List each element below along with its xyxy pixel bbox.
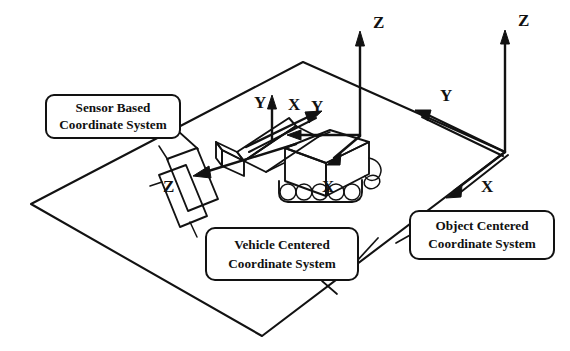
object-frame-x-label: X	[481, 177, 494, 196]
sensor-frame-y-arrowhead	[268, 95, 277, 109]
object-centered-frame: Z Y X	[415, 11, 529, 198]
sensor-based-frame: Y X Z	[163, 93, 322, 196]
vehicle-road-wheel	[280, 184, 296, 200]
vehicle-callout-line1: Vehicle Centered	[234, 237, 330, 252]
sensor-based-coordinate-system-callout[interactable]: Sensor Based Coordinate System	[46, 95, 198, 149]
vehicle-callout-line2: Coordinate System	[228, 256, 335, 271]
target-object-panel	[150, 146, 218, 237]
object-frame-z-arrowhead	[501, 30, 510, 44]
object-frame-x-arrowhead	[446, 185, 462, 198]
vehicle-callout-box[interactable]	[206, 228, 358, 280]
vehicle-callout-leader-lower	[322, 281, 337, 294]
object-frame-y-axis	[424, 113, 505, 152]
vehicle-road-wheel	[296, 184, 312, 200]
object-centered-coordinate-system-callout[interactable]: Object Centered Coordinate System	[396, 211, 554, 259]
object-frame-y-label: Y	[440, 86, 452, 105]
object-callout-line2: Coordinate System	[428, 236, 535, 251]
sensor-frame-z-label: Z	[163, 177, 174, 196]
coordinate-systems-diagram: Z Y X Z Y X	[0, 0, 570, 351]
vehicle-frame-z-arrowhead	[356, 31, 365, 46]
vehicle-road-wheel	[344, 184, 360, 200]
vehicle-frame-z-label: Z	[373, 13, 384, 32]
vehicle-centered-coordinate-system-callout[interactable]: Vehicle Centered Coordinate System	[206, 228, 378, 294]
target-panel-tick-top	[159, 146, 168, 160]
sensor-callout-line2: Coordinate System	[59, 117, 166, 132]
target-panel-tick-left	[150, 182, 162, 186]
figure-root: Z Y X Z Y X	[0, 0, 570, 351]
sensor-frame-x-label: X	[288, 95, 301, 114]
object-frame-y-arrowhead	[415, 110, 431, 121]
sensor-frame-y-label: Y	[254, 93, 266, 112]
sensor-body-top	[237, 118, 296, 161]
target-panel-tick-bottom	[190, 222, 197, 237]
object-frame-z-label: Z	[518, 11, 529, 30]
sensor-callout-line1: Sensor Based	[76, 100, 152, 115]
object-callout-line1: Object Centered	[435, 218, 529, 233]
object-frame-y-axis-secondary	[422, 117, 503, 156]
sensor-callout-leader	[178, 131, 198, 149]
